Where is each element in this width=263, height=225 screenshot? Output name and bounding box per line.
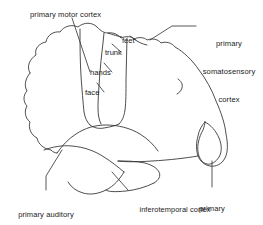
label-homunculus-face: face — [85, 88, 99, 97]
sylvian-fissure-inferior — [44, 146, 124, 172]
leader-auditory-cortex — [46, 150, 62, 190]
central-sulcus — [98, 33, 104, 124]
label-inferotemporal-cortex: inferotemporal cortex (high order vision… — [127, 186, 223, 225]
label-somatosensory-line-2: somatosensory — [197, 67, 261, 76]
leader-inferotemporal-cortex — [112, 172, 128, 190]
sylvian-fissure-superior — [57, 125, 158, 153]
brain-diagram: primary motor cortex primary somatosenso… — [0, 0, 263, 225]
primary-visual-cortex-region — [198, 122, 222, 164]
parieto-occipital-notch — [177, 79, 182, 94]
frontal-lobe-contour — [24, 73, 57, 153]
leader-motor-cortex — [72, 18, 90, 72]
label-homunculus-trunk: trunk — [105, 48, 122, 57]
label-homunculus-feet: feet — [122, 36, 135, 45]
label-inferotemporal-line-1: inferotemporal cortex — [127, 205, 223, 214]
leader-somatosensory-cortex — [150, 26, 196, 40]
precentral-gyrus-border — [80, 29, 90, 125]
label-auditory-line-1: primary auditory — [6, 210, 86, 219]
label-primary-auditory-cortex: primary auditory cortex — [6, 191, 86, 225]
label-homunculus-hands: hands — [90, 68, 111, 77]
label-primary-motor-cortex: primary motor cortex — [30, 10, 101, 19]
label-somatosensory-line-1: primary — [197, 39, 261, 48]
label-somatosensory-line-3: cortex — [197, 95, 261, 104]
label-primary-somatosensory-cortex: primary somatosensory cortex — [197, 20, 261, 123]
